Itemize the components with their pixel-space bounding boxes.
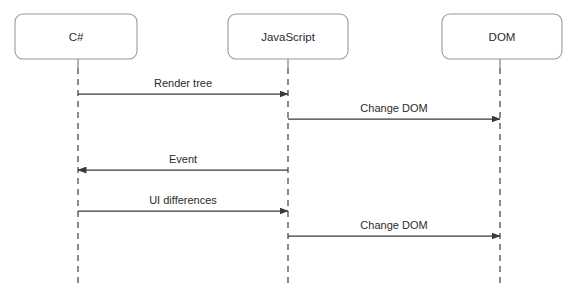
participant-label-dom: DOM (489, 31, 516, 43)
diagram-canvas: C#JavaScriptDOM Render treeChange DOMEve… (0, 0, 579, 298)
participant-label-csharp: C# (69, 31, 84, 43)
participants-layer: C#JavaScriptDOM (15, 14, 562, 59)
message-m1[interactable]: Render tree (78, 77, 288, 94)
message-label-m5: Change DOM (360, 219, 427, 231)
participant-csharp[interactable]: C# (15, 14, 137, 59)
message-m3[interactable]: Event (78, 153, 288, 170)
message-label-m4: UI differences (149, 194, 217, 206)
lifelines-layer (78, 59, 500, 285)
message-m2[interactable]: Change DOM (288, 102, 500, 119)
messages-layer: Render treeChange DOMEventUI differences… (78, 77, 500, 236)
participant-label-javascript: JavaScript (261, 31, 315, 43)
sequence-diagram: C#JavaScriptDOM Render treeChange DOMEve… (0, 0, 579, 298)
message-m5[interactable]: Change DOM (288, 219, 500, 236)
message-label-m1: Render tree (154, 77, 212, 89)
message-m4[interactable]: UI differences (78, 194, 288, 211)
participant-dom[interactable]: DOM (442, 14, 562, 59)
participant-javascript[interactable]: JavaScript (228, 14, 348, 59)
message-label-m3: Event (169, 153, 197, 165)
message-label-m2: Change DOM (360, 102, 427, 114)
